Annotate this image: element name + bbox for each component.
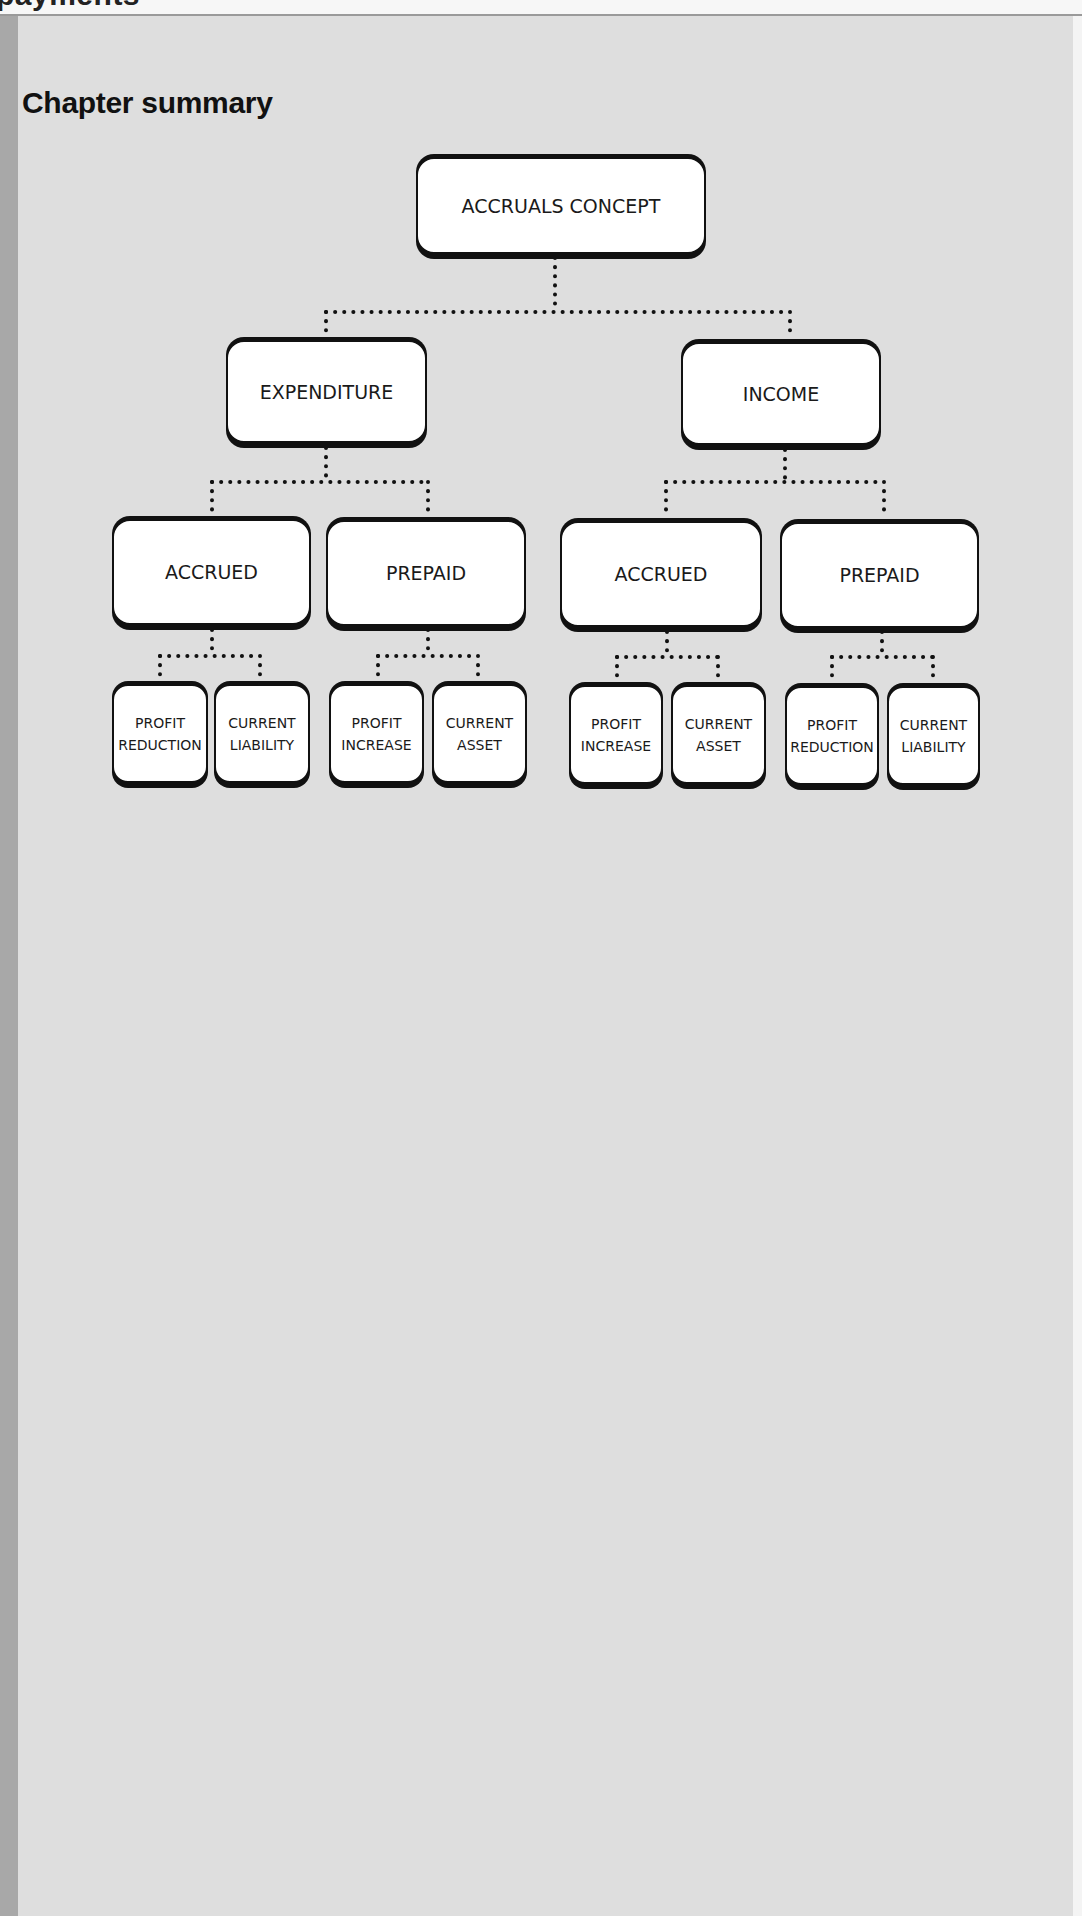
leaf-profit-increase: PROFITINCREASE bbox=[329, 684, 424, 783]
node-label: PREPAID bbox=[386, 562, 466, 584]
section-title: Chapter summary bbox=[22, 86, 273, 120]
node-income-accrued: ACCRUED bbox=[560, 521, 762, 627]
leaf-current-liability: CURRENTLIABILITY bbox=[214, 684, 310, 783]
node-label: EXPENDITURE bbox=[260, 381, 394, 403]
running-header: payments bbox=[0, 0, 1082, 16]
node-label: PREPAID bbox=[839, 564, 919, 586]
node-label: ACCRUALS CONCEPT bbox=[462, 195, 661, 217]
summary-panel bbox=[18, 16, 1073, 1916]
node-expenditure-prepaid: PREPAID bbox=[326, 520, 526, 626]
leaf-line2: REDUCTION bbox=[790, 736, 874, 758]
node-income: INCOME bbox=[681, 342, 881, 445]
leaf-line2: REDUCTION bbox=[118, 734, 202, 756]
leaf-line2: LIABILITY bbox=[228, 734, 295, 756]
leaf-line2: ASSET bbox=[685, 735, 752, 757]
leaf-line2: ASSET bbox=[446, 734, 513, 756]
leaf-line1: PROFIT bbox=[581, 713, 651, 735]
leaf-line2: INCREASE bbox=[581, 735, 651, 757]
leaf-line1: CURRENT bbox=[900, 714, 967, 736]
leaf-profit-increase: PROFITINCREASE bbox=[569, 685, 663, 784]
node-label: ACCRUED bbox=[615, 563, 708, 585]
node-expenditure: EXPENDITURE bbox=[226, 340, 427, 443]
node-label: ACCRUED bbox=[165, 561, 258, 583]
running-head-text: payments bbox=[0, 0, 140, 12]
margin-bar bbox=[0, 16, 18, 1916]
node-accruals-concept: ACCRUALS CONCEPT bbox=[416, 157, 706, 254]
leaf-line1: CURRENT bbox=[228, 712, 295, 734]
leaf-line1: PROFIT bbox=[790, 714, 874, 736]
node-income-prepaid: PREPAID bbox=[780, 522, 979, 628]
leaf-current-asset: CURRENTASSET bbox=[432, 684, 527, 783]
leaf-line1: PROFIT bbox=[341, 712, 411, 734]
leaf-profit-reduction: PROFITREDUCTION bbox=[785, 686, 879, 785]
leaf-line2: INCREASE bbox=[341, 734, 411, 756]
leaf-line1: PROFIT bbox=[118, 712, 202, 734]
leaf-profit-reduction: PROFITREDUCTION bbox=[112, 684, 208, 783]
node-expenditure-accrued: ACCRUED bbox=[112, 519, 311, 625]
leaf-line1: CURRENT bbox=[685, 713, 752, 735]
leaf-current-liability: CURRENTLIABILITY bbox=[887, 686, 980, 785]
node-label: INCOME bbox=[743, 383, 819, 405]
leaf-line2: LIABILITY bbox=[900, 736, 967, 758]
leaf-line1: CURRENT bbox=[446, 712, 513, 734]
leaf-current-asset: CURRENTASSET bbox=[671, 685, 766, 784]
